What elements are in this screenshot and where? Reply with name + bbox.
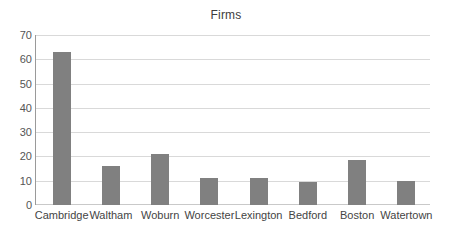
bar[interactable]: [53, 52, 71, 205]
bar-chart: Firms 010203040506070 CambridgeWalthamWo…: [0, 0, 452, 242]
y-tick-label: 50: [2, 79, 32, 90]
gridline: [36, 156, 430, 157]
y-tick-label: 30: [2, 127, 32, 138]
x-tick-label: Cambridge: [35, 209, 89, 222]
bar[interactable]: [348, 160, 366, 205]
y-tick-label: 40: [2, 103, 32, 114]
bar[interactable]: [102, 166, 120, 205]
x-tick-label: Worcester: [184, 209, 234, 222]
x-tick-label: Woburn: [141, 209, 179, 222]
gridline: [36, 132, 430, 133]
x-axis-line: [36, 204, 430, 205]
bar[interactable]: [397, 181, 415, 205]
y-tick-label: 0: [2, 200, 32, 211]
plot-area: [36, 35, 430, 205]
gridline: [36, 35, 430, 36]
gridline: [36, 108, 430, 109]
bar[interactable]: [299, 182, 317, 205]
y-axis-tick-labels: 010203040506070: [0, 35, 32, 206]
x-tick-label: Lexington: [235, 209, 283, 222]
x-tick-label: Bedford: [289, 209, 328, 222]
y-tick-label: 20: [2, 151, 32, 162]
x-axis-tick-labels: CambridgeWalthamWoburnWorcesterLexington…: [36, 209, 430, 233]
chart-title: Firms: [0, 8, 452, 22]
gridline: [36, 181, 430, 182]
y-tick-label: 60: [2, 54, 32, 65]
gridline: [36, 59, 430, 60]
x-tick-label: Watertown: [380, 209, 432, 222]
bar[interactable]: [151, 154, 169, 205]
x-tick-label: Waltham: [89, 209, 132, 222]
gridline: [36, 84, 430, 85]
bar[interactable]: [250, 178, 268, 205]
y-tick-label: 10: [2, 176, 32, 187]
x-tick-label: Boston: [340, 209, 374, 222]
y-tick-label: 70: [2, 30, 32, 41]
y-axis-line: [35, 35, 36, 205]
bar[interactable]: [200, 178, 218, 205]
